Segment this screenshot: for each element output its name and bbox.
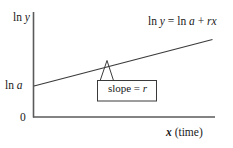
y-intercept-label: ln a [5,80,23,92]
equation-lhs-operator: ln [148,15,157,27]
log-linear-growth-figure: ln y ln a 0 ln y = ln a + rx slope = r x… [0,0,233,148]
callout-value: r [143,82,147,94]
y-intercept-operator: ln [5,79,14,91]
callout-pointer [100,61,113,81]
y-axis-label: ln y [13,12,30,24]
equation-label: ln y = ln a + rx [148,16,217,28]
y-axis-label-variable: y [25,11,30,23]
callout-label: slope = r [99,83,156,94]
x-axis-label-unit: (time) [175,126,203,138]
equation-rhs-variable: x [212,15,217,27]
x-axis-label: x (time) [166,127,203,139]
origin-label: 0 [20,112,26,124]
y-intercept-variable: a [17,79,23,91]
regression-line [34,40,213,87]
callout-label-text: slope [108,82,131,94]
y-axis-label-operator: ln [13,11,22,23]
equation-rhs-operator: ln [177,15,186,27]
